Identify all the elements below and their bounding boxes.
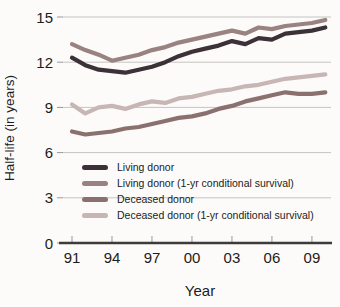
x-tick-label: 94 <box>104 249 121 266</box>
legend-swatch-living-donor-1yr <box>82 181 108 186</box>
legend-item-living-donor-1yr: Living donor (1-yr conditional survival) <box>82 175 314 191</box>
series-line-2 <box>72 92 325 134</box>
legend-item-deceased-donor: Deceased donor <box>82 191 314 207</box>
series-line-0 <box>72 28 325 73</box>
x-axis-title: Year <box>60 282 340 299</box>
legend-swatch-deceased-donor-1yr <box>82 213 108 218</box>
legend-swatch-living-donor <box>82 165 108 170</box>
x-tick-label: 09 <box>304 249 321 266</box>
y-tick-label: 15 <box>36 9 53 26</box>
y-axis-title: Half-life (in years) <box>2 53 18 203</box>
legend-label: Living donor <box>117 162 174 173</box>
legend: Living donor Living donor (1-yr conditio… <box>82 159 314 223</box>
y-tick-label: 12 <box>36 54 53 71</box>
x-tick-label: 00 <box>184 249 201 266</box>
y-tick-label: 0 <box>45 235 53 252</box>
y-tick-label: 9 <box>45 99 53 116</box>
legend-label: Deceased donor (1-yr conditional surviva… <box>117 210 314 221</box>
x-tick-label: 03 <box>224 249 241 266</box>
x-tick-label: 06 <box>264 249 281 266</box>
plot-area: 0369121591949700030609 <box>0 0 340 307</box>
legend-label: Deceased donor <box>117 194 194 205</box>
legend-swatch-deceased-donor <box>82 197 108 202</box>
x-tick-label: 91 <box>64 249 81 266</box>
x-tick-label: 97 <box>144 249 161 266</box>
series-line-1 <box>72 20 325 61</box>
y-tick-label: 3 <box>45 189 53 206</box>
legend-label: Living donor (1-yr conditional survival) <box>117 178 294 189</box>
chart-figure: 0369121591949700030609 Half-life (in yea… <box>0 0 340 307</box>
y-tick-label: 6 <box>45 144 53 161</box>
legend-item-living-donor: Living donor <box>82 159 314 175</box>
legend-item-deceased-donor-1yr: Deceased donor (1-yr conditional surviva… <box>82 207 314 223</box>
